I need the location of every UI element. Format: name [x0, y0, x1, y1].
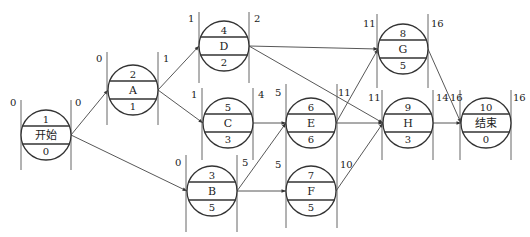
earliest-finish: 0: [75, 97, 81, 108]
node-duration: 0: [43, 146, 49, 157]
node-duration: 3: [225, 134, 231, 145]
earliest-finish: 16: [431, 18, 444, 29]
node-code: 2: [130, 69, 136, 80]
earliest-finish: 16: [513, 92, 526, 103]
node-code: 8: [400, 28, 406, 39]
node-code: 4: [221, 25, 227, 36]
node-code: 6: [308, 102, 314, 113]
node-code: 5: [225, 102, 231, 113]
node-label: B: [208, 185, 216, 198]
earliest-start: 1: [188, 13, 194, 24]
node-duration: 0: [483, 134, 489, 145]
arrow-F-to-H: [336, 123, 383, 191]
node-code: 3: [209, 170, 215, 181]
node-label: C: [224, 117, 232, 130]
node-label: G: [399, 43, 408, 56]
earliest-start: 11: [368, 92, 381, 103]
earliest-finish: 10: [340, 159, 353, 170]
earliest-finish: 4: [258, 89, 264, 100]
node-duration: 6: [308, 134, 314, 145]
node-label: A: [128, 84, 138, 97]
node-duration: 3: [405, 134, 411, 145]
earliest-start: 5: [275, 159, 281, 170]
node-F: 7F5510: [275, 159, 353, 216]
node-G: 8G51116: [363, 18, 444, 74]
node-duration: 1: [130, 101, 136, 112]
node-code: 9: [405, 102, 411, 113]
earliest-start: 5: [275, 87, 281, 98]
node-label: E: [307, 117, 315, 130]
time-guide-lines: [21, 12, 511, 232]
arrow-D-to-G: [249, 46, 378, 49]
node-code: 10: [480, 102, 493, 113]
node-code: 7: [308, 170, 314, 181]
node-duration: 5: [209, 202, 215, 213]
earliest-start: 11: [363, 18, 376, 29]
node-label: D: [220, 40, 229, 53]
earliest-start: 0: [96, 53, 102, 64]
earliest-finish: 5: [242, 157, 248, 168]
node-duration: 5: [308, 202, 314, 213]
network-diagram: 1开始0002A1014D2125C3143B5056E65117F55108G…: [0, 0, 530, 237]
earliest-start: 0: [10, 97, 16, 108]
earliest-finish: 2: [254, 13, 260, 24]
arrow-E-to-G: [336, 49, 378, 123]
node-duration: 2: [221, 57, 227, 68]
node-label: H: [403, 117, 413, 130]
earliest-finish: 11: [338, 87, 351, 98]
node-label: 结束: [475, 117, 497, 130]
earliest-start: 0: [175, 157, 181, 168]
arrow-start-to-B: [71, 135, 187, 191]
node-H: 9H31114: [368, 92, 449, 148]
node-label: 开始: [35, 128, 57, 142]
node-end: 10结束01616: [450, 92, 526, 148]
earliest-start: 16: [450, 92, 463, 103]
earliest-start: 1: [191, 89, 197, 100]
node-duration: 5: [400, 60, 406, 71]
earliest-finish: 14: [436, 92, 449, 103]
node-code: 1: [43, 114, 49, 125]
node-label: F: [307, 185, 315, 198]
earliest-finish: 1: [163, 53, 169, 64]
